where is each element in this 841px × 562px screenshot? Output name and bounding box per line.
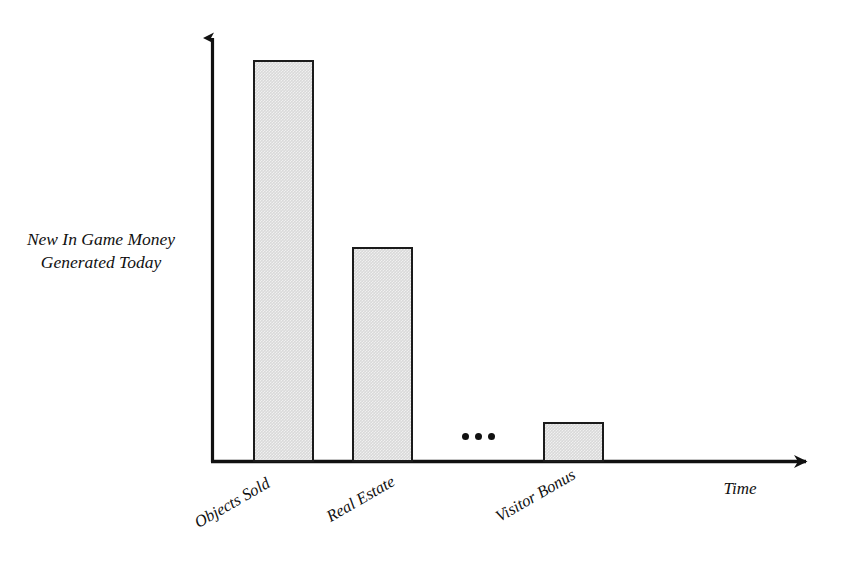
category-label-visitor-bonus: Visitor Bonus (492, 465, 579, 527)
ellipsis-dot (475, 433, 482, 440)
bar-real-estate (352, 247, 413, 462)
y-axis-label-line-2: Generated Today (10, 251, 192, 274)
y-axis-label-line-1: New In Game Money (10, 228, 192, 251)
x-axis-label: Time (688, 478, 792, 500)
category-label-real-estate: Real Estate (323, 472, 398, 527)
category-label-objects-sold: Objects Sold (191, 473, 274, 532)
bar-objects-sold (253, 60, 314, 462)
bar-visitor-bonus (543, 422, 604, 462)
y-axis-label: New In Game Money Generated Today (10, 228, 192, 274)
bar-chart-figure: New In Game Money Generated Today Time O… (0, 0, 841, 562)
ellipsis-dot (462, 433, 469, 440)
ellipsis-dot (488, 433, 495, 440)
